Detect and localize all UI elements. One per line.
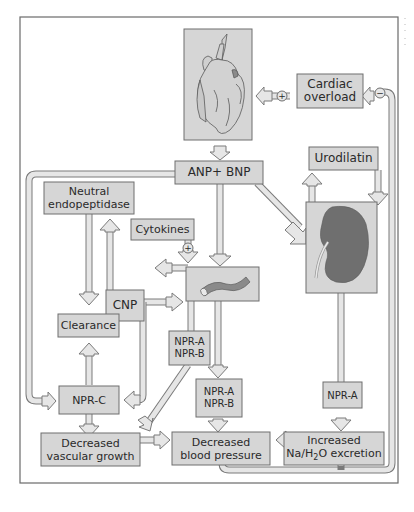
label-text: NPR-C [72,394,106,407]
neutral-endopeptidase-label: Neutral endopeptidase [44,182,134,214]
label-line: Na/H2O excretion [286,447,381,464]
decreased-blood-pressure-label: Decreased blood pressure [172,432,270,465]
cardiac-overload-label: Cardiac overload [297,74,363,108]
plus-sign-cytokines: + [183,242,193,254]
label-text: CNP [113,299,138,312]
page-edge-marks [404,18,406,45]
label-line: Increased [307,434,361,447]
decreased-vascular-growth-label: Decreased vascular growth [41,433,140,466]
label-text: Urodilatin [314,152,372,165]
label-line: NPR-A [204,386,234,398]
label-line: Neutral [69,185,110,198]
label-line: overload [304,91,356,104]
label-fragment: Na/H [286,447,313,460]
label-line: NPR-B [174,348,204,360]
label-line: blood pressure [180,449,262,462]
plus-sign-overload: + [277,90,287,102]
npr-c-label: NPR-C [59,386,119,414]
urodilatin-label: Urodilatin [309,147,378,170]
label-line: Decreased [61,437,120,450]
label-line: endopeptidase [48,198,130,211]
label-line: Decreased [192,436,251,449]
cytokines-label: Cytokines [131,219,194,240]
npr-ab-left-label: NPR-A NPR-B [169,331,210,365]
minus-sign-loop: − [375,87,385,99]
label-text: ANP+ BNP [188,166,251,179]
label-text: Clearance [61,319,116,332]
label-line: NPR-A [174,336,204,348]
plus-icon: + [278,90,286,103]
label-text: Cytokines [135,223,189,236]
clearance-label: Clearance [58,314,119,337]
label-line: NPR-B [204,398,234,410]
npr-ab-center-label: NPR-A NPR-B [196,379,242,417]
npr-a-label: NPR-A [323,382,362,408]
label-line: vascular growth [46,450,134,463]
anp-bnp-label: ANP+ BNP [175,161,263,184]
label-fragment: O excretion [318,447,381,460]
increased-excretion-label: Increased Na/H2O excretion [284,432,384,465]
minus-icon: − [376,87,384,100]
label-text: NPR-A [327,389,357,402]
plus-icon: + [184,242,192,255]
